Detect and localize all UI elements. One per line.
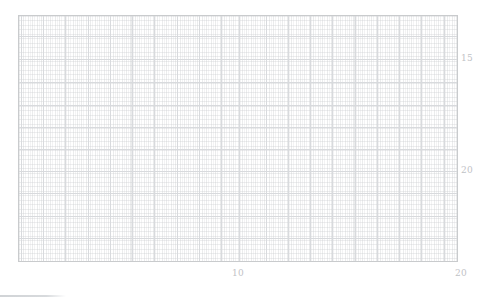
gridline-vertical bbox=[421, 16, 422, 261]
gridline-vertical bbox=[221, 16, 222, 261]
bottom-left-rule bbox=[0, 295, 66, 297]
gridline-vertical bbox=[21, 16, 22, 261]
gridline-vertical bbox=[199, 16, 200, 261]
gridline-horizontal bbox=[19, 36, 457, 37]
plot-axes-area[interactable] bbox=[18, 15, 458, 262]
gridline-horizontal bbox=[19, 82, 457, 83]
gridline-vertical bbox=[43, 16, 44, 261]
figure-canvas: 15 20 10 20 bbox=[0, 0, 486, 301]
gridline-horizontal-major-15 bbox=[19, 59, 457, 60]
gridline-vertical bbox=[310, 16, 311, 261]
gridline-horizontal bbox=[19, 216, 457, 217]
gridline-vertical-major-10 bbox=[239, 16, 240, 261]
gridline-vertical bbox=[266, 16, 267, 261]
x-tick-label-10: 10 bbox=[232, 268, 244, 278]
gridline-horizontal bbox=[19, 149, 457, 150]
gridline-vertical bbox=[177, 16, 178, 261]
gridline-vertical bbox=[355, 16, 356, 261]
gridline-horizontal-major-20 bbox=[19, 171, 457, 172]
y-tick-label-15: 15 bbox=[461, 53, 473, 63]
gridline-vertical bbox=[377, 16, 378, 261]
gridline-vertical bbox=[444, 16, 445, 261]
gridline-vertical bbox=[288, 16, 289, 261]
gridline-vertical bbox=[65, 16, 66, 261]
gridline-vertical bbox=[88, 16, 89, 261]
gridline-vertical bbox=[399, 16, 400, 261]
gridline-horizontal bbox=[19, 105, 457, 106]
gridline-horizontal bbox=[19, 238, 457, 239]
y-tick-label-20: 20 bbox=[461, 165, 473, 175]
gridline-vertical bbox=[332, 16, 333, 261]
gridline-vertical bbox=[154, 16, 155, 261]
gridline-horizontal bbox=[19, 193, 457, 194]
gridline-vertical bbox=[132, 16, 133, 261]
gridline-horizontal bbox=[19, 127, 457, 128]
minor-gridlines bbox=[19, 16, 457, 261]
x-tick-label-20: 20 bbox=[455, 268, 467, 278]
gridline-vertical bbox=[110, 16, 111, 261]
